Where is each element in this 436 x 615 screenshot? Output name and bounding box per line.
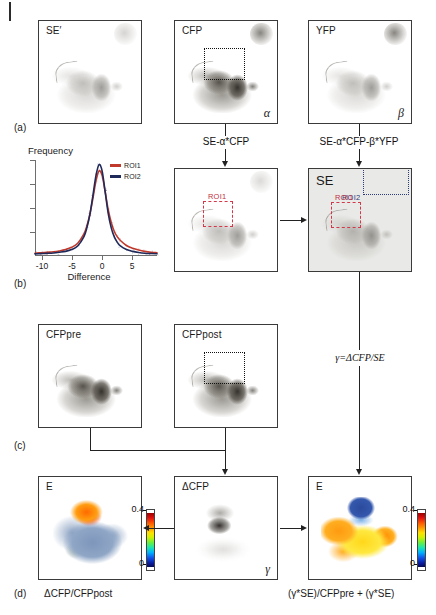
colorbar-right-min-dash <box>414 564 417 565</box>
connector-se-down <box>359 272 360 350</box>
panel-cfppost: CFPpost <box>174 324 278 428</box>
arrow-head-down-dcfp <box>222 469 228 475</box>
chart-ylabel: Frequency <box>28 145 73 156</box>
chart-y-tick <box>30 160 35 161</box>
debris-speck <box>384 23 406 45</box>
caption-left: ΔCFP/CFPpost <box>44 588 112 599</box>
beta-symbol: β <box>398 106 404 121</box>
colorbar-left-max-dash <box>143 510 146 511</box>
colorbar-left-min: 0 <box>124 558 144 568</box>
connector-c-to-dcfp <box>225 450 226 470</box>
chart-x-ticklabel: 5 <box>123 261 141 271</box>
part-label-a: (a) <box>14 122 26 133</box>
roi-box-red-roi1 <box>331 202 361 228</box>
legend-label-roi2: ROI2 <box>124 173 141 180</box>
chart-y-axis <box>35 160 36 256</box>
chart-xlabel: Difference <box>18 271 160 282</box>
panel-label-e-left: E <box>46 481 53 492</box>
panel-label-cfppre: CFPpre <box>46 329 81 340</box>
panel-cfppre: CFPpre <box>38 324 142 428</box>
colorbar-right-max: 0.4 <box>395 504 415 514</box>
panel-label-cfppost: CFPpost <box>182 329 222 340</box>
panel-label-se: SE <box>316 173 334 188</box>
gamma-symbol: γ <box>265 562 270 577</box>
frequency-difference-chart: Frequency -10 -5 0 5 Difference ROI1 ROI <box>18 158 160 268</box>
panel-label-cfp: CFP <box>182 25 202 36</box>
figure-root: (a) SE′ CFP α YFP β SE-α*CFP SE-α*CFP-β*… <box>0 0 436 615</box>
roi1-tag: ROI1 <box>335 193 353 202</box>
colorbar-left <box>146 509 155 571</box>
arrow-head-down-yfp <box>356 161 362 167</box>
colorbar-right-max-dash <box>414 510 417 511</box>
page-rule-mark <box>9 2 11 21</box>
chart-x-tick <box>102 255 103 260</box>
arrow-head-left-e <box>143 525 149 531</box>
connector-yfp-down <box>359 124 360 136</box>
chart-legend: ROI1 ROI2 <box>110 162 141 184</box>
debris-speck <box>250 23 272 45</box>
panel-label-e-right: E <box>316 481 323 492</box>
part-label-d: (d) <box>14 588 26 599</box>
panel-se: ROI2 ROI1 SE <box>308 168 412 272</box>
colorbar-left-min-dash <box>143 564 146 565</box>
connector-cfppost-down <box>225 428 226 450</box>
roi-box-red-roi1 <box>203 201 233 227</box>
connector-dcfp-to-e-left <box>148 528 174 529</box>
colorbar-left-max: 0.4 <box>124 504 144 514</box>
chart-x-ticklabel: -5 <box>63 261 81 271</box>
connector-cfp-down <box>225 124 226 136</box>
arrow-head-right-se <box>301 217 307 223</box>
panel-label-dcfp: ΔCFP <box>182 481 209 492</box>
image-dcfp-noise <box>191 532 254 567</box>
connector-cfppre-down <box>90 428 91 450</box>
heatmap-image-e-left <box>53 499 128 564</box>
chart-x-ticklabel: 0 <box>93 261 111 271</box>
alpha-symbol: α <box>264 106 270 121</box>
legend-entry-roi2: ROI2 <box>110 173 141 180</box>
equation-se-minus-alpha-cfp: SE-α*CFP <box>175 136 277 147</box>
connector-dcfp-to-e-right <box>280 528 302 529</box>
equation-gamma: γ=ΔCFP/SE <box>310 352 410 363</box>
panel-label-se-prime: SE′ <box>46 25 62 36</box>
chart-y-tick <box>30 184 35 185</box>
arrow-head-down-cfp <box>222 161 228 167</box>
debris-speck <box>250 171 272 193</box>
panel-yfp: YFP β <box>308 20 412 124</box>
panel-cfp: CFP α <box>174 20 278 124</box>
chart-y-tick <box>30 232 35 233</box>
equation-se-minus-alpha-cfp-beta-yfp: SE-α*CFP-β*YFP <box>298 136 420 147</box>
connector-middle-to-se <box>280 220 302 221</box>
panel-se-prime: SE′ <box>38 20 142 124</box>
roi-box-blue-roi2 <box>363 168 409 195</box>
debris-speck <box>114 23 136 45</box>
legend-label-roi1: ROI1 <box>124 162 141 169</box>
arrow-head-down-gamma <box>356 469 362 475</box>
chart-x-axis <box>35 255 157 256</box>
panel-se-minus-alpha-cfp: ROI1 <box>174 168 278 272</box>
part-label-c: (c) <box>14 440 26 451</box>
caption-right: (γ*SE)/CFPpre + (γ*SE) <box>288 588 394 599</box>
legend-swatch-roi1 <box>110 164 121 166</box>
roi-box-black-cfppost <box>204 352 245 384</box>
arrow-head-right-e <box>301 525 307 531</box>
chart-y-tick <box>30 208 35 209</box>
panel-dcfp: ΔCFP γ <box>174 476 278 580</box>
roi1-tag: ROI1 <box>208 192 226 201</box>
colorbar-right-min: 0 <box>395 558 415 568</box>
image-dcfp <box>202 504 239 535</box>
chart-x-tick <box>42 255 43 260</box>
chart-x-tick <box>72 255 73 260</box>
chart-x-tick <box>132 255 133 260</box>
roi-box-black-cfp <box>204 48 245 80</box>
legend-entry-roi1: ROI1 <box>110 162 141 169</box>
panel-label-yfp: YFP <box>316 25 336 36</box>
chart-x-ticklabel: -10 <box>33 261 51 271</box>
legend-swatch-roi2 <box>110 175 121 177</box>
connector-gamma-down <box>359 366 360 470</box>
connector-c-join <box>90 450 226 451</box>
heatmap-image-e-right <box>321 497 401 564</box>
colorbar-right <box>417 509 426 571</box>
